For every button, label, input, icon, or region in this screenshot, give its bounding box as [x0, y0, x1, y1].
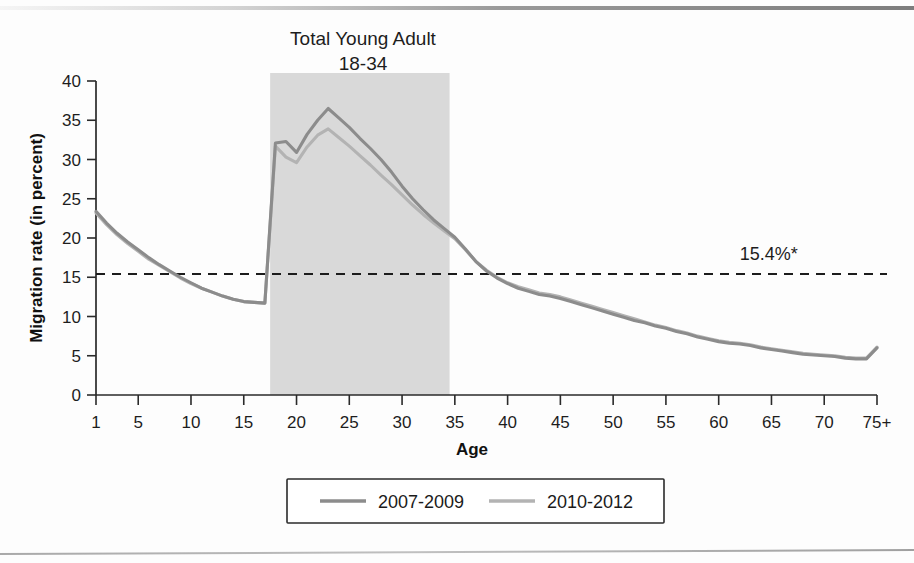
series-lines	[96, 108, 877, 358]
y-axis-ticks	[87, 81, 96, 395]
young-adult-band	[270, 73, 449, 395]
x-tick-label: 1	[91, 413, 100, 432]
legend-label-2010-2012: 2010-2012	[547, 492, 633, 512]
y-tick-label: 40	[62, 72, 81, 91]
x-tick-label: 15	[234, 413, 253, 432]
y-tick-label: 0	[72, 386, 81, 405]
reference-line-label: 15.4%*	[740, 244, 798, 264]
x-tick-label: 70	[815, 413, 834, 432]
x-tick-label: 10	[182, 413, 201, 432]
legend: 2007-20092010-2012	[287, 479, 664, 523]
x-tick-label: 60	[709, 413, 728, 432]
x-tick-label: 50	[604, 413, 623, 432]
chart-title-line1: Total Young Adult	[290, 28, 437, 49]
x-tick-label: 30	[393, 413, 412, 432]
migration-rate-chart: 0510152025303540 15101520253035404550556…	[0, 0, 914, 563]
y-tick-label: 25	[62, 190, 81, 209]
axes	[87, 81, 877, 405]
series-line-2007-2009	[96, 108, 877, 358]
legend-label-2007-2009: 2007-2009	[378, 492, 464, 512]
x-tick-label: 45	[551, 413, 570, 432]
scanned-page: 0510152025303540 15101520253035404550556…	[0, 0, 914, 563]
y-tick-label: 10	[62, 308, 81, 327]
y-tick-label: 35	[62, 111, 81, 130]
x-tick-label: 55	[656, 413, 675, 432]
x-tick-label: 65	[762, 413, 781, 432]
x-tick-label: 40	[498, 413, 517, 432]
x-axis-tick-labels: 151015202530354045505560657075+	[91, 413, 891, 432]
x-tick-label: 20	[287, 413, 306, 432]
x-tick-label: 25	[340, 413, 359, 432]
x-tick-label: 35	[445, 413, 464, 432]
x-tick-label: 5	[133, 413, 142, 432]
x-tick-label: 75+	[863, 413, 892, 432]
y-axis-tick-labels: 0510152025303540	[62, 72, 81, 405]
chart-title-line2: 18-34	[339, 53, 388, 74]
y-axis-title: Migration rate (in percent)	[27, 133, 46, 343]
y-tick-label: 5	[72, 347, 81, 366]
y-tick-label: 15	[62, 268, 81, 287]
x-axis-ticks	[96, 395, 877, 405]
x-axis-title: Age	[456, 440, 488, 459]
y-tick-label: 20	[62, 229, 81, 248]
y-tick-label: 30	[62, 151, 81, 170]
